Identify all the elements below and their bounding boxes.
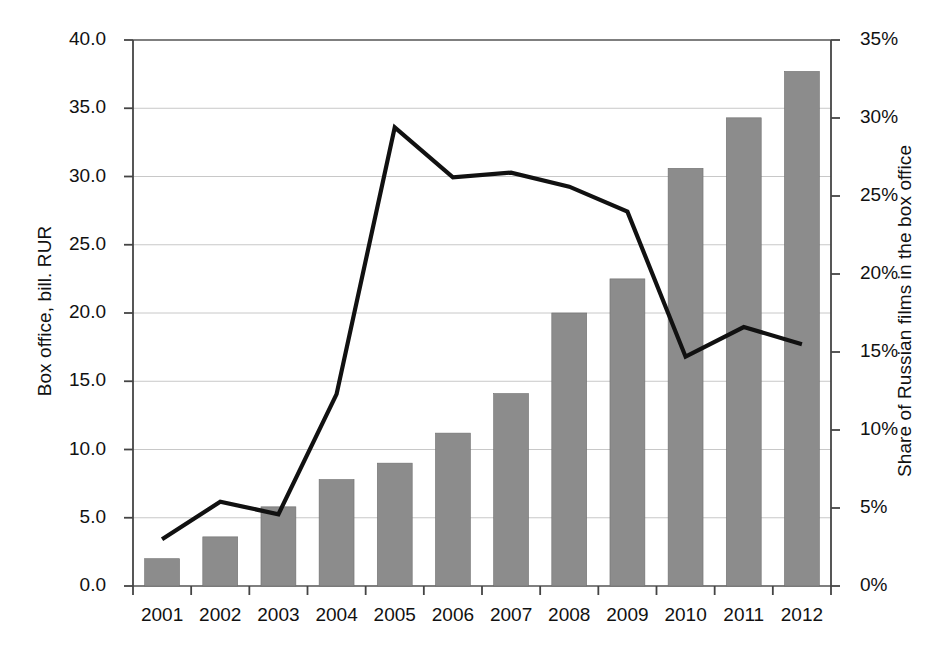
y-axis-right-tick-label: 0%	[860, 574, 945, 596]
plot-area	[0, 0, 945, 650]
y-axis-left-tick-label: 10.0	[20, 438, 106, 460]
bar	[435, 433, 470, 586]
bar	[319, 480, 354, 586]
y-axis-right-tick-label: 15%	[860, 340, 945, 362]
y-axis-left-tick-label: 40.0	[20, 28, 106, 50]
y-axis-right-tick-label: 30%	[860, 106, 945, 128]
bar	[145, 559, 180, 586]
bar	[552, 313, 587, 586]
bar	[203, 537, 238, 586]
bar	[668, 168, 703, 586]
y-axis-right-tick-label: 35%	[860, 28, 945, 50]
bar	[377, 463, 412, 586]
bar	[726, 118, 761, 586]
chart-container: Box office, bill. RUR Share of Russian f…	[0, 0, 945, 650]
y-axis-left-tick-label: 20.0	[20, 301, 106, 323]
y-axis-left-tick-label: 0.0	[20, 574, 106, 596]
bar	[610, 279, 645, 586]
bar	[784, 71, 819, 586]
x-axis-tick-label: 2012	[762, 604, 842, 626]
y-axis-left-tick-label: 30.0	[20, 165, 106, 187]
y-axis-left-tick-label: 5.0	[20, 506, 106, 528]
bar	[261, 507, 296, 586]
y-axis-right-tick-label: 5%	[860, 496, 945, 518]
y-axis-left-tick-label: 25.0	[20, 233, 106, 255]
y-axis-right-tick-label: 10%	[860, 418, 945, 440]
y-axis-right-tick-label: 20%	[860, 262, 945, 284]
y-axis-left-tick-label: 15.0	[20, 369, 106, 391]
y-axis-right-tick-label: 25%	[860, 184, 945, 206]
y-axis-left-tick-label: 35.0	[20, 96, 106, 118]
bar	[494, 394, 529, 586]
line-series	[162, 127, 802, 539]
